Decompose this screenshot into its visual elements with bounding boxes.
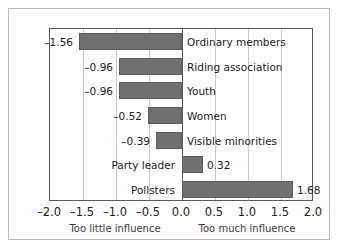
x-tick-label: –1.0	[103, 205, 127, 219]
bar-value-label: –0.52	[113, 110, 142, 122]
bar-value-label: –0.39	[121, 135, 150, 147]
x-tick-label: 2.0	[304, 205, 322, 219]
bar	[156, 132, 182, 149]
bar	[79, 33, 182, 50]
bar	[182, 156, 203, 173]
plot-area: –1.56Ordinary members–0.96Riding associa…	[49, 28, 313, 201]
bar	[119, 58, 182, 75]
x-tick-label: 1.5	[271, 205, 289, 219]
bar-category-label: Riding association	[187, 61, 283, 73]
figure-outer-frame: –1.56Ordinary members–0.96Riding associa…	[8, 8, 330, 240]
axis-caption: Too much influence	[199, 223, 296, 234]
axis-caption: Too little influence	[69, 223, 160, 234]
bar-category-label: Women	[187, 110, 227, 122]
bar-value-label: 1.68	[297, 184, 320, 196]
bar-category-label: Visible minorities	[187, 135, 277, 147]
bar	[148, 107, 182, 124]
figure: –1.56Ordinary members–0.96Riding associa…	[0, 0, 340, 252]
x-tick-label: 1.0	[238, 205, 256, 219]
x-axis-captions: Too little influenceToo much influence	[49, 223, 313, 237]
bar-category-label: Ordinary members	[187, 36, 286, 48]
bar-series: –1.56Ordinary members–0.96Riding associa…	[50, 29, 312, 200]
bar	[182, 181, 293, 198]
bar-category-label: Pollsters	[131, 184, 175, 196]
bar-value-label: 0.32	[207, 159, 230, 171]
bar-category-label: Party leader	[111, 159, 175, 171]
x-tick-label: –0.5	[136, 205, 160, 219]
x-axis-tick-labels: –2.0–1.5–1.0–0.50.00.51.01.52.0	[49, 205, 313, 221]
x-tick-label: –1.5	[70, 205, 94, 219]
x-tick-label: 0.0	[172, 205, 190, 219]
bar-value-label: –0.96	[84, 61, 113, 73]
bar	[119, 82, 182, 99]
bar-category-label: Youth	[187, 85, 216, 97]
bar-value-label: –1.56	[44, 36, 73, 48]
x-tick-label: –2.0	[37, 205, 61, 219]
bar-value-label: –0.96	[84, 85, 113, 97]
x-tick-label: 0.5	[205, 205, 223, 219]
